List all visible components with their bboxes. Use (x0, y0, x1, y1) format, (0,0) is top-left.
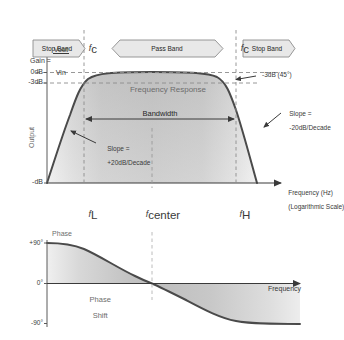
phase-ytick-zero: 0° (37, 279, 43, 286)
stop-band-left-label: Stop Band (42, 45, 72, 52)
slope-right-leader (264, 113, 281, 127)
minus-3db-leader (236, 76, 256, 80)
magnitude-x-axis-label: Frequency (Hz) (Logarithmic Scale) (281, 182, 344, 217)
xtick-fh: fH (222, 186, 251, 239)
ytick-0db: 0dB (31, 68, 43, 76)
ytick-minus3db: -3dB (28, 78, 43, 86)
magnitude-x-axis-label-line2: (Logarithmic Scale) (288, 203, 344, 210)
stop-band-right-label: Stop Band (252, 45, 282, 52)
xtick-fl: fL (71, 186, 98, 239)
phase-shift-label-line2: Shift (93, 311, 108, 320)
frequency-response-label: Frequency Response (130, 86, 206, 95)
fc-left-label: fc (71, 20, 97, 73)
phase-shift-label: Phase Shift (81, 288, 111, 328)
ytick-minusdb: -dB (32, 178, 43, 186)
gain-formula: Gain = Vout Vin (30, 16, 69, 106)
phase-ytick-minus90: -90° (31, 319, 43, 326)
fc-right-label: fc (223, 20, 249, 73)
bandwidth-label: Bandwidth (142, 110, 177, 118)
minus-3db-callout: -3dB (45°) (262, 71, 292, 78)
slope-right-line1: Slope = (289, 110, 311, 117)
gain-formula-label: Gain = (30, 57, 51, 65)
phase-shift-label-line1: Phase (90, 295, 111, 304)
gain-fraction: Vout Vin (53, 31, 69, 91)
magnitude-y-axis-label: Output (28, 127, 36, 148)
phase-ytick-plus90: +90° (29, 239, 43, 246)
phase-y-axis-label: Phase (52, 230, 72, 238)
slope-left-line1: Slope = (107, 145, 129, 152)
magnitude-x-axis-label-line1: Frequency (Hz) (288, 189, 333, 196)
slope-left-line2: +20dB/Decade (107, 159, 150, 166)
slope-left-callout: Slope = +20dB/Decade (100, 138, 150, 173)
gain-denominator: Vin (53, 69, 69, 76)
phase-x-axis-label: Frequency (268, 285, 301, 293)
pass-band-label: Pass Band (151, 45, 182, 52)
slope-right-callout: Slope = -20dB/Decade (282, 103, 331, 138)
slope-right-line2: -20dB/Decade (289, 124, 331, 131)
xtick-fcenter: fcenter (128, 186, 180, 239)
